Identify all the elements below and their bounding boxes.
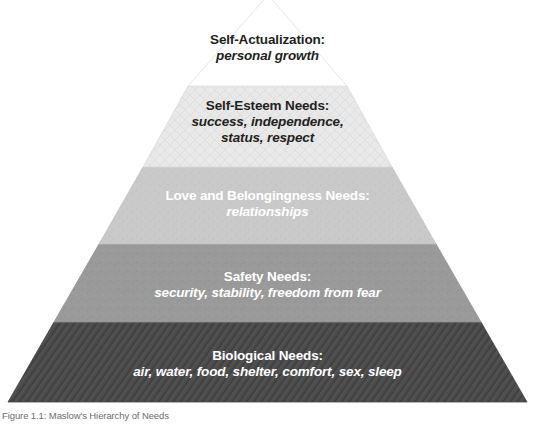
pyramid-level-self-actualization	[188, 0, 347, 86]
pyramid-level-esteem	[143, 86, 392, 167]
pyramid-level-love	[99, 167, 436, 244]
pyramid-level-safety	[54, 244, 481, 322]
pyramid-level-biological	[8, 322, 527, 402]
figure-caption: Figure 1.1: Maslow's Hierarchy of Needs	[2, 410, 169, 421]
maslow-pyramid-figure: Self-Actualization: personal growth Self…	[0, 0, 535, 425]
pyramid-diagram	[0, 0, 535, 425]
